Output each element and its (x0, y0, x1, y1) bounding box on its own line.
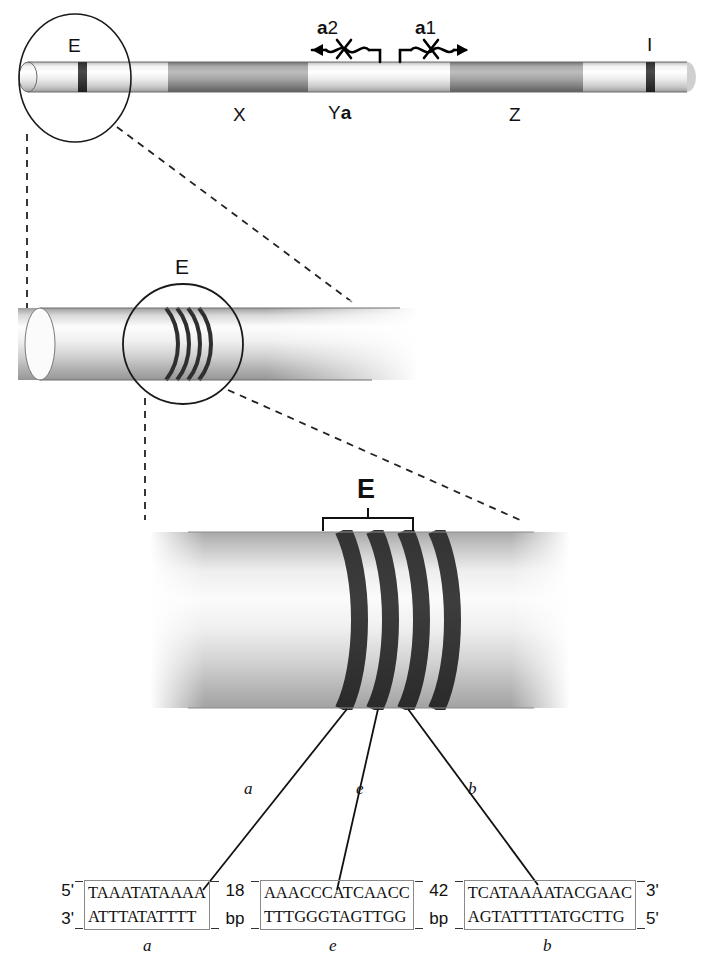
band-magnification (150, 508, 570, 890)
end-label-3-prime-right: 3' (646, 881, 672, 901)
connector-dash (637, 928, 645, 929)
connector-dash (455, 928, 463, 929)
connector-dash (211, 928, 219, 929)
sequence-box-label-e: e (329, 936, 337, 956)
label-transcript-a1-prefix: a (415, 17, 426, 38)
chromosome-cap-left (19, 62, 37, 92)
label-transcript-a2: a2 (317, 18, 338, 37)
end-label-5-prime-left: 5' (48, 881, 74, 901)
dna-sequence-row: 5' 3' TAAATATAAAA ATTTATATTTT 18 bp (48, 880, 688, 958)
gap-18bp: 18 bp (220, 881, 250, 929)
sequence-top-b: TCATAAAATACGAAC (465, 881, 635, 905)
right-ends: 3' 5' (646, 881, 672, 929)
medium-cylinder-cap-left (25, 308, 55, 380)
label-segment-ya: Ya (328, 103, 351, 122)
label-segment-x: X (233, 105, 246, 124)
gap-42bp-unit: bp (424, 909, 454, 929)
figure-root: E a2 a1 X Ya Z I E E a e b 5' 3' TAAATAT… (0, 0, 718, 978)
transcript-arrowhead-a1 (457, 44, 468, 56)
connector-dash (75, 928, 83, 929)
cylinder-magnification (18, 284, 520, 520)
chromosome-overview (19, 14, 696, 310)
sequence-top-e: AAACCCATCAACC (261, 881, 413, 905)
leader-line-a (203, 709, 347, 890)
leader-label-b: b (468, 780, 477, 797)
connector-dash (415, 928, 423, 929)
connector-dash (251, 928, 259, 929)
gap-18bp-unit: bp (220, 909, 250, 929)
gap-42bp-value: 42 (424, 881, 454, 901)
label-band-i: I (647, 35, 653, 54)
connector-dash (211, 881, 219, 882)
sequence-bottom-b: AGTATTTTATGCTTG (465, 905, 635, 929)
sequence-box-e: AAACCCATCAACC TTTGGGTAGTTGG (260, 880, 414, 930)
label-transcript-a2-prefix: a (317, 17, 328, 38)
connector-dash (251, 881, 259, 882)
connector-dash (75, 881, 83, 882)
medium-cylinder-fade (18, 300, 418, 384)
transcript-arrowhead-a2 (312, 44, 323, 56)
chromosome-segment-z (450, 62, 583, 92)
chromosome-cap-right (687, 62, 696, 92)
large-cylinder-fade (150, 530, 570, 710)
label-e-circle-1: E (68, 36, 81, 55)
label-segment-ya-bold: a (341, 102, 352, 123)
label-e-bracket: E (357, 476, 375, 503)
connector-dash (637, 881, 645, 882)
end-label-5-prime-right: 5' (646, 909, 672, 929)
dashed-connector-1-right (117, 127, 352, 302)
connector-dash (415, 881, 423, 882)
label-segment-z: Z (509, 105, 521, 124)
leader-label-e: e (356, 780, 364, 797)
chromosome-band-i (646, 62, 655, 92)
chromosome-segment-x (168, 62, 308, 92)
leader-lines (203, 709, 538, 890)
bracket-e (323, 508, 413, 531)
label-transcript-a1: a1 (415, 18, 436, 37)
chromosome-segment-right (583, 62, 687, 92)
sequence-box-label-b: b (543, 936, 552, 956)
chromosome-band-e (78, 62, 87, 92)
sequence-top-a: TAAATATAAAA (85, 881, 209, 905)
sequence-box-a: TAAATATAAAA ATTTATATTTT (84, 880, 210, 930)
sequence-box-label-a: a (143, 936, 152, 956)
sequence-box-b: TCATAAAATACGAAC AGTATTTTATGCTTG (464, 880, 636, 930)
chromosome-segment-ya (308, 62, 450, 92)
leader-line-e (337, 709, 378, 890)
connector-dash (455, 881, 463, 882)
gap-18bp-value: 18 (220, 881, 250, 901)
label-e-circle-2: E (175, 256, 189, 277)
left-ends: 5' 3' (48, 881, 74, 929)
end-label-3-prime-left: 3' (48, 909, 74, 929)
gap-42bp: 42 bp (424, 881, 454, 929)
leader-label-a: a (244, 780, 253, 797)
label-segment-ya-prefix: Y (328, 102, 341, 123)
sequence-bottom-a: ATTTATATTTT (85, 905, 209, 929)
chromosome-segment-left (28, 62, 168, 92)
label-transcript-a1-suffix: 1 (426, 17, 437, 38)
label-transcript-a2-suffix: 2 (328, 17, 339, 38)
sequence-bottom-e: TTTGGGTAGTTGG (261, 905, 413, 929)
